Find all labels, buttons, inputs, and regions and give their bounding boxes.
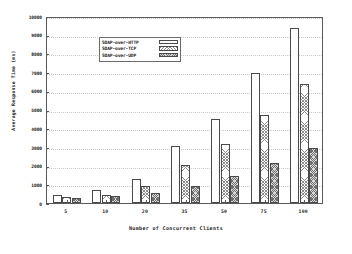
y-tick-mark [46,148,49,149]
bar-soap-over-http-5 [53,195,62,203]
bar-soap-over-tcp-75 [260,115,269,203]
legend-label-tcp: SOAP-over-TCP [102,46,136,51]
plot-area: SOAP-over-HTTP SOAP-over-TCP SOAP-over-U… [46,17,323,204]
legend-label-udp: SOAP-over-UDP [102,53,136,58]
x-tick-mark [146,200,147,203]
y-tick-mark [46,17,49,18]
y-tick-mark [46,36,49,37]
y-tick-label: 5000 [16,108,42,113]
gridline [47,37,322,38]
legend-item: SOAP-over-TCP [102,46,178,52]
y-tick-label: 1000 [16,183,42,188]
bar-soap-over-http-35 [171,146,180,203]
legend-swatch-tcp [159,46,178,51]
x-tick-label: 100 [288,209,318,214]
y-tick-label: 9000 [16,33,42,38]
gridline [47,18,322,19]
y-tick-mark [46,92,49,93]
bar-soap-over-udp-10 [111,196,120,203]
y-tick-label: 6000 [16,89,42,94]
bar-soap-over-udp-35 [191,186,200,203]
bar-soap-over-http-75 [251,73,260,203]
gridline [47,74,322,75]
gridline [47,112,322,113]
y-tick-mark [46,54,49,55]
gridline [47,55,322,56]
x-tick-mark [106,200,107,203]
y-tick-label: 4000 [16,127,42,132]
y-tick-label: 0 [16,202,42,207]
bar-soap-over-tcp-35 [181,165,190,203]
bar-soap-over-http-20 [132,179,141,203]
bar-soap-over-udp-5 [72,198,81,203]
bar-soap-over-udp-75 [270,163,279,203]
x-tick-label: 50 [209,209,239,214]
legend-item: SOAP-over-HTTP [102,39,178,45]
bar-soap-over-udp-20 [151,193,160,203]
x-tick-mark [67,200,68,203]
y-tick-label: 2000 [16,164,42,169]
legend-swatch-http [159,40,178,45]
y-tick-label: 7000 [16,71,42,76]
x-tick-label: 10 [90,209,120,214]
bar-soap-over-tcp-50 [221,144,230,203]
x-tick-label: 5 [51,209,81,214]
y-tick-label: 8000 [16,52,42,57]
x-tick-mark [225,200,226,203]
y-tick-mark [46,185,49,186]
bar-soap-over-udp-50 [230,176,239,203]
y-tick-mark [46,167,49,168]
bar-soap-over-http-50 [211,119,220,203]
y-tick-mark [46,73,49,74]
legend-label-http: SOAP-over-HTTP [102,40,139,45]
gridline [47,93,322,94]
y-tick-label: 10000 [16,15,42,20]
x-tick-mark [186,200,187,203]
x-tick-label: 75 [249,209,279,214]
legend: SOAP-over-HTTP SOAP-over-TCP SOAP-over-U… [99,37,181,62]
y-tick-mark [46,204,49,205]
gridline [47,130,322,131]
x-tick-label: 20 [130,209,160,214]
x-axis-title: Number of Concurrent Clients [0,225,352,231]
y-tick-mark [46,111,49,112]
x-tick-mark [265,200,266,203]
y-tick-label: 3000 [16,146,42,151]
bar-soap-over-udp-100 [309,148,318,203]
x-tick-mark [304,200,305,203]
x-tick-label: 35 [170,209,200,214]
gridline [47,149,322,150]
bar-soap-over-tcp-100 [300,84,309,203]
y-tick-mark [46,129,49,130]
legend-item: SOAP-over-UDP [102,52,178,58]
bar-soap-over-http-100 [290,28,299,203]
y-axis-title: Average Response Time (ms) [11,26,16,156]
bar-chart-figure: Average Response Time (ms) SOAP-over-HTT… [0,0,352,254]
legend-swatch-udp [159,53,178,58]
bar-soap-over-http-10 [92,190,101,203]
